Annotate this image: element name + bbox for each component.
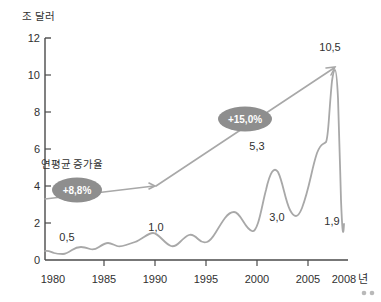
y-tick-label-10: 10 — [28, 69, 40, 81]
x-tick-label-1985: 1985 — [92, 273, 116, 285]
y-axis-title: 조 달러 — [22, 10, 55, 22]
cagr-caption: 연평균 증가율 — [41, 158, 104, 170]
x-axis-unit-label: 년 — [358, 273, 368, 285]
point-label-1-0: 1,0 — [148, 221, 163, 233]
point-label-10-5: 10,5 — [319, 41, 340, 53]
y-tick-label-0: 0 — [34, 254, 40, 266]
y-tick-label-12: 12 — [28, 32, 40, 44]
x-tick-label-2008: 2008 — [332, 273, 356, 285]
point-label-5-3: 5,3 — [249, 140, 264, 152]
y-tick-label-2: 2 — [34, 217, 40, 229]
y-tick-label-4: 4 — [34, 180, 40, 192]
corner-dot-right-icon — [370, 291, 375, 296]
chart-container: 조 달러 12 10 8 6 4 2 0 1980 1985 1990 1995… — [0, 0, 381, 302]
y-tick-label-8: 8 — [34, 106, 40, 118]
x-tick-label-2005: 2005 — [296, 273, 320, 285]
y-tick-label-6: 6 — [34, 143, 40, 155]
point-label-3-0: 3,0 — [269, 211, 284, 223]
point-label-1-9: 1,9 — [324, 215, 339, 227]
corner-dot-left-icon — [362, 291, 367, 296]
cagr-badge-late-label: +15,0% — [228, 114, 262, 125]
x-tick-label-1990: 1990 — [143, 273, 167, 285]
cagr-badge-late[interactable]: +15,0% — [218, 107, 272, 132]
point-label-0-5: 0,5 — [59, 231, 74, 243]
cagr-badge-early[interactable]: +8,8% — [52, 178, 102, 203]
x-tick-label-1995: 1995 — [194, 273, 218, 285]
x-tick-label-2000: 2000 — [245, 273, 269, 285]
x-tick-label-1980: 1980 — [41, 273, 65, 285]
line-chart: 조 달러 12 10 8 6 4 2 0 1980 1985 1990 1995… — [0, 0, 381, 302]
cagr-badge-early-label: +8,8% — [63, 185, 92, 196]
